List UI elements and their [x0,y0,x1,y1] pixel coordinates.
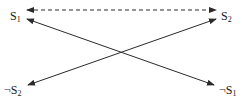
node-s1-label: S1 [10,10,21,22]
not-s2-negation: ¬ [4,83,11,97]
diagram-edges [0,0,242,101]
s1-base: S [10,9,17,23]
node-s2-label: S2 [221,10,232,22]
state-diagram: S1 S2 ¬S2 ¬S1 [0,0,242,101]
s2-subscript: 2 [228,15,232,24]
not-s1-negation: ¬ [219,83,226,97]
not-s1-subscript: 1 [232,89,236,98]
s2-base: S [221,9,228,23]
s1-subscript: 1 [17,15,21,24]
node-not-s1-label: ¬S1 [219,84,236,96]
not-s2-subscript: 2 [17,89,21,98]
node-not-s2-label: ¬S2 [4,84,21,96]
